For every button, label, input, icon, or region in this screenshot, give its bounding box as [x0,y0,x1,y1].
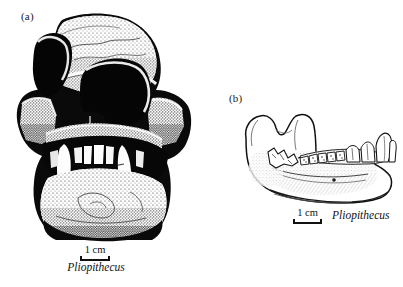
scale-bar-panel-b: 1 cm [293,207,322,224]
scale-bar-label-a: 1 cm [80,244,110,255]
scale-tick-right [320,219,322,224]
taxon-caption-a: Pliopithecus [54,261,138,273]
scale-bar-panel-a: 1 cm [80,244,110,261]
scale-rule [293,222,322,224]
scale-bar-rule-b [293,219,322,224]
figure-plate: (a) [0,0,403,287]
mental-foramen [332,178,336,182]
mandible-illustration [238,108,398,206]
cranium-illustration [12,12,194,240]
panel-label-b: (b) [229,92,242,104]
taxon-caption-b: Pliopithecus [332,209,390,221]
scale-bar-label-b: 1 cm [293,207,322,218]
